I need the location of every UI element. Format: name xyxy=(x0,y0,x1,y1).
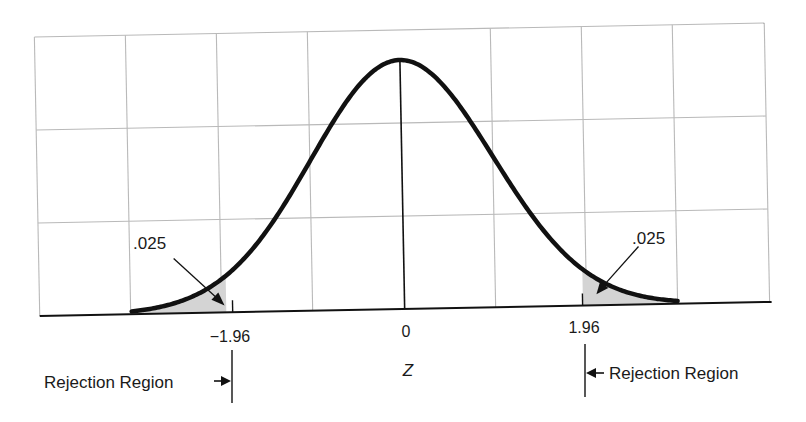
z-axis-label: Z xyxy=(402,361,414,380)
tick-label-zero: 0 xyxy=(402,323,411,340)
tick-label-pos: 1.96 xyxy=(568,319,599,336)
mean-line xyxy=(400,60,405,309)
tail-label-right: .025 xyxy=(632,229,665,248)
rejection-label-left: Rejection Region xyxy=(44,373,173,392)
rejection-label-right: Rejection Region xyxy=(609,364,738,383)
rejection-arrow-left xyxy=(214,376,231,386)
rejection-arrow-right xyxy=(586,368,604,378)
tail-label-left: .025 xyxy=(133,234,166,253)
normal-distribution-chart: .025 .025 −1.96 0 1.96 Z Rejection Regio… xyxy=(0,0,806,422)
tick-label-neg: −1.96 xyxy=(210,328,251,345)
